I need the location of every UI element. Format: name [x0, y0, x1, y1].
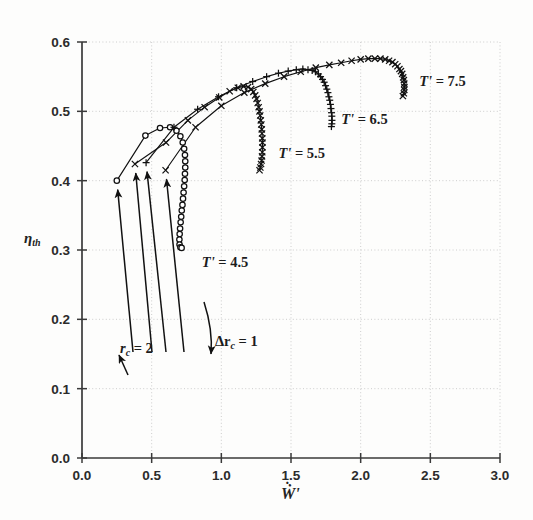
- svg-text:T' = 5.5: T' = 5.5: [278, 145, 325, 161]
- svg-text:1.0: 1.0: [212, 468, 231, 483]
- x-axis-title: ·Ẇ': [281, 485, 300, 503]
- svg-text:0.6: 0.6: [51, 35, 70, 50]
- curve-labels: T' = 4.5T' = 5.5T' = 6.5T' = 7.5: [202, 73, 466, 271]
- figure-container: 0.00.10.20.30.40.50.60.00.51.01.52.02.53…: [0, 0, 533, 520]
- svg-text:0.2: 0.2: [51, 312, 70, 327]
- svg-text:T' = 4.5: T' = 4.5: [202, 254, 249, 270]
- svg-text:0.3: 0.3: [51, 243, 70, 258]
- svg-text:2.0: 2.0: [351, 468, 370, 483]
- svg-text:0.1: 0.1: [51, 382, 70, 397]
- annotation-delta-rc: Δrc = 1: [215, 332, 258, 351]
- svg-text:0.0: 0.0: [73, 468, 92, 483]
- svg-text:0.4: 0.4: [51, 174, 70, 189]
- data-markers: [114, 56, 407, 251]
- svg-text:T' = 7.5: T' = 7.5: [419, 73, 466, 89]
- axis-ticks: [77, 42, 500, 463]
- svg-text:0.5: 0.5: [51, 104, 70, 119]
- y-axis-title: ηth: [24, 229, 41, 248]
- annotation-rc-start: rc = 2: [120, 339, 153, 358]
- axis-tick-labels: 0.00.10.20.30.40.50.60.00.51.01.52.02.53…: [51, 35, 509, 483]
- svg-text:0.5: 0.5: [142, 468, 161, 483]
- svg-text:2.5: 2.5: [421, 468, 440, 483]
- gridlines: [82, 42, 500, 458]
- svg-text:T' = 6.5: T' = 6.5: [341, 111, 388, 127]
- chart-svg: 0.00.10.20.30.40.50.60.00.51.01.52.02.53…: [0, 0, 533, 520]
- svg-text:0.0: 0.0: [51, 451, 70, 466]
- svg-text:3.0: 3.0: [491, 468, 510, 483]
- w-dot-accent: ·: [285, 476, 290, 492]
